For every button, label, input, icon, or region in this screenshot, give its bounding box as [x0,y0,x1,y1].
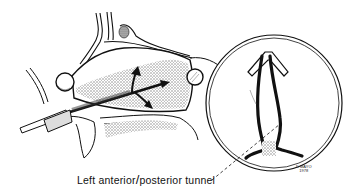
figure-caption: Left anterior/posterior tunnel [77,172,215,187]
anatomical-illustration [0,0,344,194]
right-nodule [187,69,203,85]
left-nodule [56,73,74,91]
upper-nodule [119,26,129,38]
signature-year: 1978 [299,168,308,173]
artist-signature: D MAYO 1978 [296,165,312,173]
lower-stippled-band [104,120,178,138]
caption-posterior: posterior tunnel [139,174,215,186]
magnified-inset [206,35,342,171]
caption-anterior: Left anterior [77,174,136,186]
